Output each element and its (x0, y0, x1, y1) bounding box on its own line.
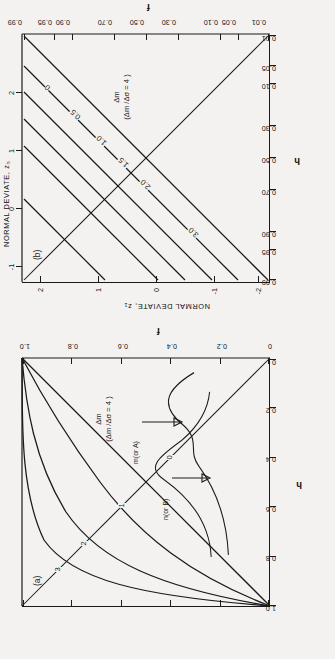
panel-a-h-axis-title: h (296, 480, 302, 491)
panel-b-y-label-7: 0.05 (222, 18, 236, 27)
panel-a-tag: (a) (32, 576, 42, 586)
panel-b-left-deviate-label-0: 0 (152, 288, 161, 306)
panel-a: 3 2 1 0 (a) Δm (Δm /Δσ = 4 ) n(or B) m(o… (0, 331, 335, 651)
panel-b-annotation-main: Δm (112, 91, 121, 102)
panel-b-x-label-5: 0.30 (262, 124, 276, 133)
panel-a-curve-label-2: 2 (80, 541, 88, 546)
panel-b-y-label-8: 0.01 (252, 18, 266, 27)
panel-b-x-label-3: 0.70 (262, 188, 276, 197)
panel-b-x-label-2: 0.90 (262, 230, 276, 239)
panel-a-arrow-signal (142, 418, 182, 426)
panel-b-top-axis-title-sub: n (5, 161, 11, 165)
panel-b-x-label-4: 0.50 (262, 156, 276, 165)
panel-a-h-label-5: 0 (272, 358, 276, 367)
panel-b-y-label-6: 0.10 (204, 18, 218, 27)
panel-b-plot-area: 3.0 2.0 1.5 1.0 0.5 0 (b) Δm (Δm /Δσ = 4… (22, 35, 270, 283)
panel-a-curve-label-1: 1 (118, 503, 126, 508)
panel-b-curves (22, 34, 270, 282)
panel-a-h-label-3: 0.4 (266, 455, 276, 464)
panel-b-annotation-sub: (Δm /Δσ = 4 ) (122, 74, 131, 119)
panel-a-f-label-1: 0.2 (217, 342, 227, 351)
panel-a-h-label-0: 1.0 (266, 604, 276, 613)
panel-b-x-label-8: 0.01 (262, 34, 276, 43)
panel-a-label-noise: n(or B) (162, 499, 171, 520)
panel-b-y-label-0: 0.99 (8, 18, 22, 27)
panel-a-curve-label-0: 0 (166, 455, 174, 460)
panel-a-h-label-4: 0.2 (266, 406, 276, 415)
panel-a-f-axis-title: f (157, 326, 160, 337)
panel-b-x-label-6: 0.10 (262, 82, 276, 91)
panel-b: NORMAL DEVIATE, zn -1 0 1 2 NORMAL DEVIA… (0, 5, 335, 323)
panel-a-plot-area: 3 2 1 0 (a) Δm (Δm /Δσ = 4 ) n(or B) m(o… (22, 359, 270, 607)
panel-a-annotation-sub: (Δm /Δσ = 4 ) (104, 396, 113, 441)
figure-page: NORMAL DEVIATE, zn -1 0 1 2 NORMAL DEVIA… (0, 0, 335, 659)
panel-b-y-label-1: 0.95 (38, 18, 52, 27)
scanned-figure: NORMAL DEVIATE, zn -1 0 1 2 NORMAL DEVIA… (0, 0, 335, 659)
panel-a-label-signal: m(or A) (132, 441, 141, 464)
panel-a-arrow-noise (172, 474, 210, 482)
panel-b-left-deviate-label-1: 1 (94, 288, 103, 306)
panel-a-f-label-4: 0.8 (68, 342, 78, 351)
panel-a-h-label-2: 0.6 (266, 505, 276, 514)
panel-b-top-deviate-label-1: 0 (7, 207, 16, 211)
panel-b-left-axis-title-sub: 1 (124, 302, 128, 308)
panel-a-f-label-3: 0.6 (118, 342, 128, 351)
panel-b-y-label-5: 0.30 (162, 18, 176, 27)
panel-b-left-axis-title-text: NORMAL DEVIATE, z (128, 302, 210, 311)
panel-a-annotation: Δm (Δm /Δσ = 4 ) (94, 384, 115, 454)
panel-a-h-label-1: 0.8 (266, 554, 276, 563)
panel-b-y-label-2: 0.90 (56, 18, 70, 27)
panel-b-top-deviate-label-3: 2 (7, 91, 16, 95)
rotation-wrapper: NORMAL DEVIATE, zn -1 0 1 2 NORMAL DEVIA… (0, 0, 335, 659)
panel-b-x-label-7: 0.05 (262, 64, 276, 73)
panel-a-f-label-0: 0 (268, 342, 272, 351)
panel-a-signal-distribution (168, 373, 228, 555)
panel-b-left-axis-title: NORMAL DEVIATE, z1 (124, 302, 210, 311)
panel-b-x-label-1: 0.95 (262, 248, 276, 257)
panel-b-y-label-3: 0.70 (98, 18, 112, 27)
panel-b-top-axis-title: NORMAL DEVIATE, zn (2, 161, 11, 247)
panel-b-x-label-0: 0.99 (262, 278, 276, 287)
panel-b-x-axis-title: h (294, 156, 300, 167)
panel-b-annotation: Δm (Δm /Δσ = 4 ) (112, 62, 133, 132)
panel-b-left-deviate-label-m1: -1 (210, 288, 219, 306)
panel-b-y-label-4: 0.50 (130, 18, 144, 27)
panel-b-left-deviate-label-m2: -2 (254, 288, 263, 306)
panel-b-top-axis-title-text: NORMAL DEVIATE, z (2, 165, 11, 247)
panel-b-tag: (b) (32, 250, 42, 260)
panel-a-f-label-2: 0.4 (167, 342, 177, 351)
panel-a-f-label-5: 1.0 (20, 342, 30, 351)
panel-a-curve-label-3: 3 (54, 567, 62, 572)
panel-b-top-deviate-label-2: 1 (7, 149, 16, 153)
panel-a-annotation-main: Δm (94, 413, 103, 424)
panel-b-top-deviate-label-0: -1 (7, 264, 16, 271)
panel-b-y-axis-title: f (147, 2, 150, 13)
panel-b-left-deviate-label-2: 2 (36, 288, 45, 306)
